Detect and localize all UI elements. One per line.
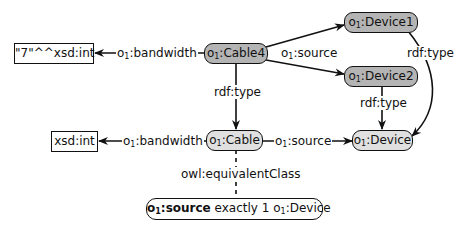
restriction-node[interactable]: o1:source exactly 1 o1:Device <box>146 198 323 220</box>
local-name: :Device <box>366 133 411 147</box>
local-name: :Device2 <box>361 69 414 83</box>
prefix: o <box>354 133 361 147</box>
prefix: o <box>348 69 355 83</box>
local-name: :Cable <box>222 133 260 147</box>
label-cable4-bandwidth: o1:bandwidth <box>116 46 198 60</box>
label-cable-bandwidth: o1:bandwidth <box>122 134 204 148</box>
label-cable4-type: rdf:type <box>213 85 262 99</box>
device2-node[interactable]: o1:Device2 <box>344 66 418 87</box>
label-cable4-source: o1:source <box>280 46 338 60</box>
local-name: :Cable4 <box>219 46 265 60</box>
restriction-property: o1:source <box>147 201 211 215</box>
prefix: o <box>209 133 216 147</box>
xsd-int-text: xsd:int <box>54 134 95 148</box>
label-device2-type: rdf:type <box>359 96 408 110</box>
cable-class-node[interactable]: o1:Cable <box>206 130 263 151</box>
device-class-node[interactable]: o1:Device <box>352 130 413 151</box>
label-cable-source: o1:source <box>274 134 332 148</box>
literal-value-node[interactable]: "7"^^xsd:int <box>14 43 94 64</box>
prefix: o <box>348 15 355 29</box>
device1-node[interactable]: o1:Device1 <box>344 12 418 33</box>
restriction-class: o1:Device <box>273 201 331 215</box>
label-device1-type: rdf:type <box>406 46 455 60</box>
local-name: :Device1 <box>361 15 414 29</box>
literal-value-text: "7"^^xsd:int <box>15 46 94 60</box>
restriction-cardinality: exactly 1 <box>211 201 273 215</box>
xsd-int-node[interactable]: xsd:int <box>51 131 98 152</box>
edge-cable4-source-device2 <box>266 60 344 74</box>
cable4-node[interactable]: o1:Cable4 <box>204 43 268 64</box>
edge-cable4-source-device1 <box>266 25 344 47</box>
label-equivalent-class: owl:equivalentClass <box>180 167 302 181</box>
